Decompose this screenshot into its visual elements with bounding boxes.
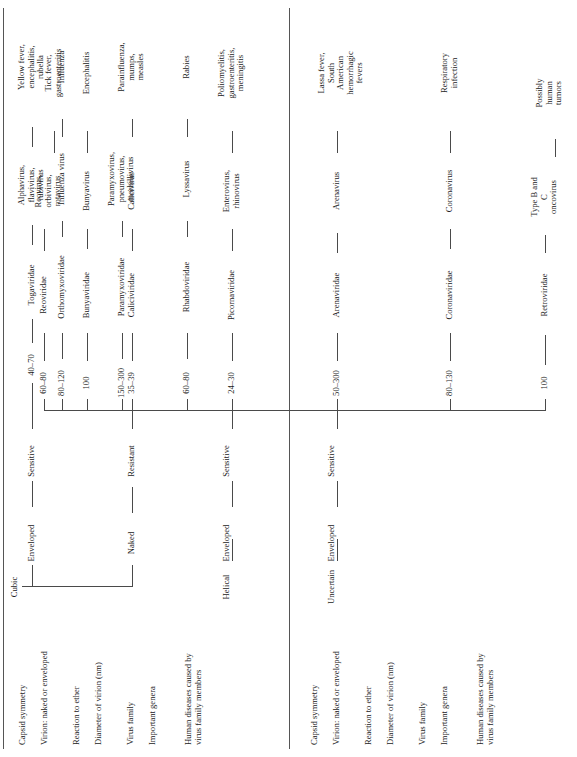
rotated-page: Capsid symmetry Virion: naked or envelop… [0,0,577,757]
panel-2: Capsid symmetry Virion: naked or envelop… [292,0,577,757]
p2-genera-arenavirus: Arenavirus [332,153,342,229]
p2-corona-link3 [450,131,451,153]
p2-genera-type-b-c-oncovirus: Type B and C oncovirus [530,159,559,235]
p2-diameter-arena: 50–300 [332,360,342,406]
p2-genera-coronavirus: Coronavirus [445,153,455,229]
p2-diseases-lassa-fever: Lassa fever, South American hemorrhagic … [317,18,365,128]
p2-arena-link3 [337,131,338,153]
panel-separator-rule [289,8,290,749]
panel-1-helical-tree [0,0,288,757]
p2-diseases-respiratory-infection: Respiratory infection [440,23,459,123]
p2-virion-enveloped: Enveloped [327,508,337,578]
p2-corona-link2 [450,229,451,249]
p2-sensitive-stem [337,411,338,429]
p2-diameter-corona: 80–130 [445,360,455,406]
p2-retro-link1 [545,335,546,365]
p2-arena-link1 [337,333,338,361]
panel-2-tree: Uncertain Enveloped Sensitive 100 Retrov… [292,0,577,757]
p2-family-coronaviridae: Coronaviridae [445,252,455,338]
p2-family-arenaviridae: Arenaviridae [332,254,342,336]
p2-uncertain-link [337,539,338,561]
p2-retro-link3 [555,139,556,157]
p2-arena-link2 [337,233,338,253]
p2-family-retroviridae: Retroviridae [540,254,550,336]
figure-canvas: Capsid symmetry Virion: naked or envelop… [0,0,577,757]
panel-1-helical-leaves [0,0,288,757]
p2-ether-sensitive: Sensitive [327,430,337,492]
p2-enveloped-link [337,481,338,507]
p2-sensitive-bus [337,410,545,411]
p2-diameter-retro: 100 [540,360,550,406]
p2-diseases-possibly-human-tumors: Possibly human tumors [535,45,564,141]
p2-retro-link2 [545,235,546,253]
